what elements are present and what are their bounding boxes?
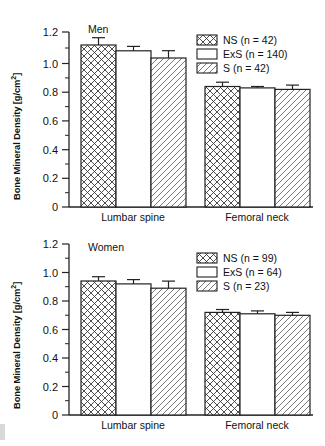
chart-panel-women: 0 0.2 0.4 0.6 0.8 1.0 1.2 Bone Mineral D… [0,223,325,446]
women-x-tick-labels: Lumbar spine Femoral neck [101,419,289,431]
xtick-femoral-neck: Femoral neck [225,211,289,223]
bar-women-femoral-ns [205,312,240,415]
men-y-tick-labels: 0 0.2 0.4 0.6 0.8 1.0 1.2 [43,26,58,213]
women-group-lumbar-spine [81,277,186,415]
svg-text:Bone Mineral Density [g/cm2]: Bone Mineral Density [g/cm2] [10,282,22,409]
ytick-06: 0.6 [43,115,58,127]
ytick-04: 0.4 [43,144,58,156]
xtick-femoral-neck: Femoral neck [225,419,289,431]
ytick-04: 0.4 [43,352,58,364]
legend-label-exs: ExS (n = 140) [223,48,288,60]
bar-men-lumbar-exs [116,51,151,207]
scan-edge-artifact [0,424,5,440]
men-legend: NS (n = 42) ExS (n = 140) S (n = 42) [197,34,288,74]
legend-swatch-s-icon [197,63,217,73]
men-x-tick-labels: Lumbar spine Femoral neck [101,211,289,223]
legend-swatch-ns-icon [197,35,217,45]
ytick-0: 0 [52,409,58,421]
axis-title-tail: ] [11,282,22,285]
women-plot: 0 0.2 0.4 0.6 0.8 1.0 1.2 Bone Mineral D… [0,223,325,446]
ytick-02: 0.2 [43,381,58,393]
xtick-lumbar-spine: Lumbar spine [101,419,165,431]
axis-title-main: Bone Mineral Density [g/cm [11,80,22,200]
axis-title-main: Bone Mineral Density [g/cm [11,289,22,409]
legend-label-ns: NS (n = 99) [223,252,277,264]
ytick-10: 1.0 [43,267,58,279]
legend-swatch-s-icon [197,281,217,291]
legend-label-exs: ExS (n = 64) [223,266,282,278]
men-group-lumbar-spine [81,38,186,207]
legend-swatch-exs-icon [197,49,217,59]
men-group-femoral-neck [205,82,310,207]
panel-label-women: Women [88,241,124,253]
ytick-02: 0.2 [43,172,58,184]
women-y-tick-labels: 0 0.2 0.4 0.6 0.8 1.0 1.2 [43,238,58,421]
bar-women-lumbar-s [151,288,186,415]
bar-women-femoral-exs [240,314,275,415]
panel-label-men: Men [88,23,109,35]
women-legend: NS (n = 99) ExS (n = 64) S (n = 23) [197,252,282,292]
axis-title-tail: ] [11,73,22,76]
ytick-10: 1.0 [43,58,58,70]
legend-swatch-exs-icon [197,267,217,277]
bar-men-lumbar-ns [81,45,116,207]
bmd-figure: 0 0.2 0.4 0.6 0.8 1.0 1.2 Bone Mineral D… [0,0,325,446]
ytick-0: 0 [52,201,58,213]
bar-women-lumbar-exs [116,284,151,415]
women-y-major-ticks [62,244,69,415]
bar-women-femoral-s [275,315,310,415]
ytick-08: 0.8 [43,295,58,307]
ytick-06: 0.6 [43,324,58,336]
bar-men-femoral-ns [205,87,240,208]
legend-label-s: S (n = 42) [223,62,269,74]
xtick-lumbar-spine: Lumbar spine [101,211,165,223]
legend-label-s: S (n = 23) [223,280,269,292]
men-y-axis-title: Bone Mineral Density [g/cm2] [10,73,22,200]
chart-panel-men: 0 0.2 0.4 0.6 0.8 1.0 1.2 Bone Mineral D… [0,0,325,223]
women-y-axis-title: Bone Mineral Density [g/cm2] [10,282,22,409]
svg-text:Bone Mineral Density [g/cm2]: Bone Mineral Density [g/cm2] [10,73,22,200]
women-group-femoral-neck [205,310,310,416]
bar-men-femoral-exs [240,88,275,207]
ytick-08: 0.8 [43,86,58,98]
ytick-12: 1.2 [43,26,58,38]
bar-men-lumbar-s [151,58,186,207]
men-y-major-ticks [62,32,69,207]
ytick-12: 1.2 [43,238,58,250]
legend-swatch-ns-icon [197,253,217,263]
men-plot: 0 0.2 0.4 0.6 0.8 1.0 1.2 Bone Mineral D… [0,0,325,223]
bar-women-lumbar-ns [81,281,116,415]
bar-men-femoral-s [275,89,310,207]
legend-label-ns: NS (n = 42) [223,34,277,46]
